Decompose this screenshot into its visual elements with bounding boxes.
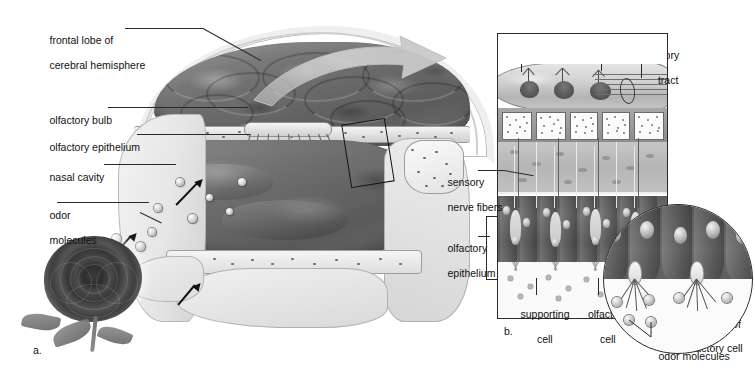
epithelium-bracket xyxy=(486,216,498,280)
leader-supporting-cell xyxy=(536,278,537,295)
cell-nucleus xyxy=(503,206,510,215)
sensory-nerve-fiber xyxy=(616,142,617,208)
leader-olfactory-tract xyxy=(641,62,642,78)
odor-molecule xyxy=(584,277,589,282)
odor-molecule xyxy=(508,276,513,281)
cribriform-plate xyxy=(498,108,667,142)
supporting-cell-column xyxy=(560,196,577,262)
label-olfactory-tract-line2: tract xyxy=(640,74,697,87)
cell-nucleus xyxy=(552,238,559,247)
sensory-nerve-fiber xyxy=(634,146,635,208)
cell-nucleus xyxy=(512,236,519,245)
sensory-nerve-fiber xyxy=(598,138,599,208)
panel-b-label-band xyxy=(498,34,667,64)
cell-nucleus xyxy=(543,208,550,217)
odor-molecule xyxy=(546,275,551,280)
label-supporting-cell: supporting cell xyxy=(503,295,569,358)
cell-nucleus xyxy=(563,220,570,229)
magnified-cilia-inset xyxy=(603,204,753,354)
sensory-nerve-fiber xyxy=(576,142,577,208)
sensory-nerve-fiber xyxy=(594,146,595,208)
label-sensory-nerve-fibers-line1: sensory xyxy=(448,176,485,188)
bone-block xyxy=(536,112,566,140)
bone-block xyxy=(602,112,630,140)
sensory-nerve-fiber xyxy=(554,146,555,208)
label-supporting-cell-line2: cell xyxy=(537,333,553,345)
sensory-nerve-fiber xyxy=(514,146,515,208)
bone-block xyxy=(570,112,598,140)
sensory-nerve-fiber xyxy=(536,142,537,208)
figure-root: frontal lobe of cerebral hemisphere olfa… xyxy=(0,0,755,374)
panel-b-letter: b. xyxy=(504,325,513,337)
supporting-cell-column xyxy=(520,196,537,262)
cell-nucleus xyxy=(583,207,590,216)
leader-olfactory-cell xyxy=(598,278,599,295)
cell-nucleus xyxy=(592,236,599,245)
leader-sensory-nerve-fibers xyxy=(478,170,504,171)
cell-nucleus xyxy=(523,218,530,227)
odor-molecule xyxy=(566,286,571,291)
label-sensory-nerve-fibers-line2: nerve fibers xyxy=(448,201,503,213)
label-olfactory-epithelium-b-line1: olfactory xyxy=(448,242,488,254)
panel-b: olfactory bulb neuron olfactory tract se… xyxy=(0,0,755,374)
lamina-boundary xyxy=(498,192,667,194)
sensory-nerve-fiber xyxy=(558,138,559,208)
bone-block xyxy=(634,112,664,140)
label-supporting-cell-line1: supporting xyxy=(521,308,570,320)
odor-molecule xyxy=(528,284,533,289)
bone-block xyxy=(502,112,532,140)
sensory-nerve-fiber xyxy=(638,138,639,208)
lamina-propria xyxy=(498,142,667,194)
